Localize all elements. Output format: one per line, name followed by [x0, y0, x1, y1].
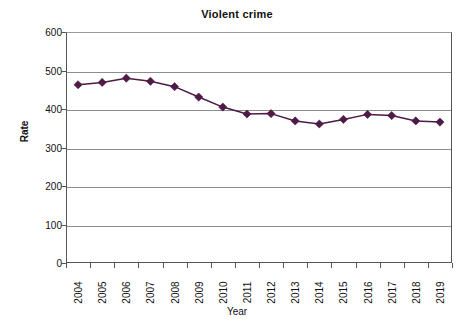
y-axis-tick-label: 100	[24, 219, 62, 230]
x-axis-tick-mark	[211, 263, 212, 268]
y-axis-tick-mark	[61, 32, 66, 33]
x-axis-tick-mark	[452, 263, 453, 268]
y-axis-tick-mark	[61, 225, 66, 226]
gridline	[67, 226, 451, 227]
x-axis-tick-mark	[428, 263, 429, 268]
y-axis-tick-mark	[61, 109, 66, 110]
y-axis-tick-mark	[61, 186, 66, 187]
x-axis-tick-mark	[283, 263, 284, 268]
y-axis-tick-label: 400	[24, 104, 62, 115]
plot-area	[66, 32, 452, 263]
x-axis-tick-mark	[307, 263, 308, 268]
y-axis-tick-label: 0	[24, 258, 62, 269]
gridline	[67, 72, 451, 73]
x-axis-tick-mark	[90, 263, 91, 268]
x-axis-tick-mark	[163, 263, 164, 268]
x-axis-tick-mark	[404, 263, 405, 268]
gridline	[67, 187, 451, 188]
y-axis-tick-label: 500	[24, 65, 62, 76]
y-axis-tick-label: 600	[24, 27, 62, 38]
y-axis-tick-mark	[61, 71, 66, 72]
x-axis-tick-mark	[380, 263, 381, 268]
x-axis-tick-mark	[356, 263, 357, 268]
y-axis-tick-label: 300	[24, 142, 62, 153]
gridline	[67, 110, 451, 111]
x-axis-tick-mark	[138, 263, 139, 268]
x-axis-tick-mark	[331, 263, 332, 268]
x-axis-title: Year	[0, 306, 474, 317]
x-axis-tick-mark	[235, 263, 236, 268]
chart-container: Violent crime Rate 0100200300400500600 2…	[0, 0, 474, 329]
y-axis-tick-label: 200	[24, 181, 62, 192]
chart-title: Violent crime	[0, 8, 474, 20]
gridline	[67, 149, 451, 150]
x-axis-tick-mark	[259, 263, 260, 268]
x-axis-tick-mark	[114, 263, 115, 268]
y-axis-tick-labels: 0100200300400500600	[20, 32, 62, 263]
x-axis-tick-mark	[66, 263, 67, 268]
y-axis-tick-mark	[61, 148, 66, 149]
x-axis-tick-mark	[187, 263, 188, 268]
